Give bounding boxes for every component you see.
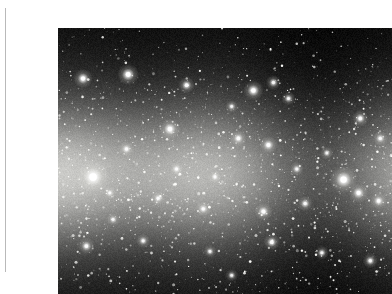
page-margin-rule xyxy=(5,8,6,272)
milky-way-image xyxy=(58,28,392,294)
milky-way-figure xyxy=(58,28,392,294)
